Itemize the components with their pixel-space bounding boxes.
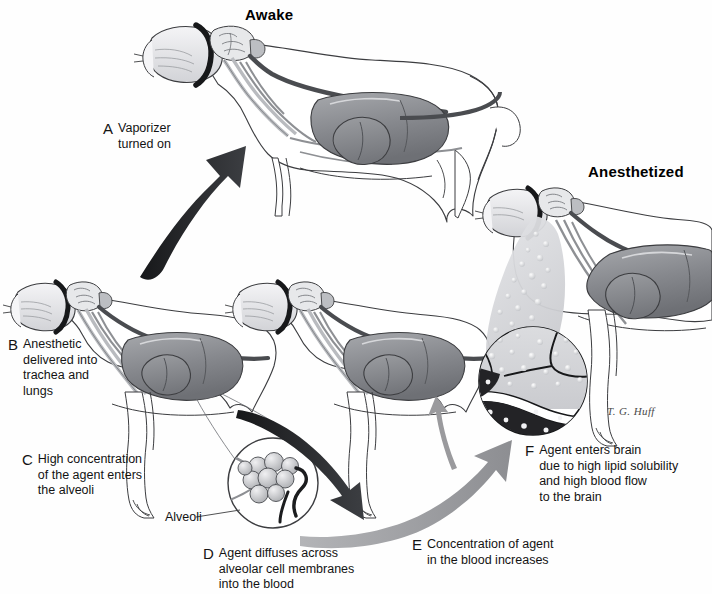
page-title-anesthetized: Anesthetized (588, 163, 684, 180)
step-e: E Concentration of agent in the blood in… (412, 537, 554, 568)
step-c-letter: C (22, 452, 33, 467)
step-e-letter: E (412, 537, 422, 552)
step-c-text: High concentration of the agent enters t… (38, 452, 142, 499)
anesthesia-diagram-page: Awake Anesthetized A Vaporizer turned on… (0, 0, 712, 594)
step-c: C High concentration of the agent enters… (22, 452, 142, 499)
arrow-a-vaporizer (140, 146, 246, 280)
step-b-text: Anesthetic delivered into trachea and lu… (23, 337, 97, 399)
page-title-awake: Awake (245, 6, 293, 23)
step-f-letter: F (525, 443, 534, 458)
artist-signature: T. G. Huff (607, 405, 655, 417)
arrow-to-lungs (428, 396, 457, 470)
step-f-text: Agent enters brain due to high lipid sol… (539, 443, 678, 505)
step-e-text: Concentration of agent in the blood incr… (427, 537, 553, 568)
step-d-letter: D (203, 546, 214, 561)
step-a-letter: A (103, 121, 113, 136)
step-b: B Anesthetic delivered into trachea and … (8, 337, 97, 399)
blood-gas-exchange-inset (479, 327, 592, 438)
step-a-text: Vaporizer turned on (118, 121, 171, 152)
dog-awake-illustration (134, 25, 520, 222)
footer-caption-strip (0, 586, 712, 594)
step-b-letter: B (8, 337, 18, 352)
step-f: F Agent enters brain due to high lipid s… (525, 443, 678, 505)
arrow-e-bloodstream (300, 440, 512, 548)
alveoli-callout-label: Alveoli (165, 510, 202, 524)
step-a: A Vaporizer turned on (103, 121, 171, 152)
